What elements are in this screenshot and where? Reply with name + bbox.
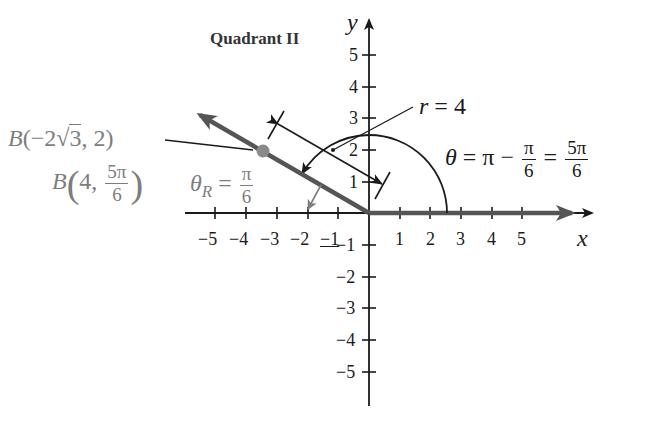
radius-label: r = 4 [419,94,466,118]
equals-sign: = [218,170,232,196]
close-paren: ) [130,163,143,205]
rect-open: (−2 [23,125,57,151]
reference-angle-fraction: π 6 [240,164,254,208]
polar-point-name: B [52,168,67,194]
frac1-den: 6 [524,160,534,182]
x-tick-label: −4 [229,230,248,248]
x-tick-label: 4 [487,230,496,248]
y-tick-label: −1 [336,236,355,254]
y-tick-label: 2 [349,141,358,159]
x-tick-label: −5 [198,230,217,248]
y-tick-label: 3 [349,109,358,127]
angle-eq1: = π − [463,144,514,170]
r-leader-line [333,107,413,150]
y-tick-label: 1 [349,173,358,191]
polar-theta-den: 6 [112,184,122,206]
y-tick-label: −5 [336,363,355,381]
frac2-den: 6 [572,160,582,182]
x-tick-label: 5 [517,230,526,248]
open-paren: ( [67,163,80,205]
reference-angle-label: θR = π 6 [190,164,255,208]
polar-coordinate-diagram: Quadrant II y x −5 −4 −3 −2 −1 1 2 3 4 5… [0,0,648,424]
sqrt-arg: 3 [69,124,81,151]
angle-arc [302,135,447,213]
ref-frac-num: π [240,164,254,186]
x-tick-label: 3 [456,230,465,248]
point-b-rectangular-label: BB(−2(−2√3, 2) [8,126,113,150]
angle-fraction-1: π 6 [522,138,536,182]
point-b-name: B [8,125,23,151]
frac1-num: π [522,138,536,160]
y-tick-label: −3 [336,299,355,317]
sqrt-sign: √ [56,125,69,151]
reference-angle-arrow [308,185,321,209]
x-tick-label: 1 [395,230,404,248]
theta-subscript: R [202,182,212,201]
y-tick-label: 5 [349,46,358,64]
r-symbol: r [419,93,428,119]
y-tick-label: −4 [336,331,355,349]
x-axis-label: x [577,226,588,250]
x-tick-label: 2 [426,230,435,248]
polar-r: 4, [79,168,97,194]
y-axis-label: y [347,10,358,34]
y-tick-label: 4 [349,78,358,96]
angle-label: θ = π − π 6 = 5π 6 [445,138,590,182]
polar-theta-fraction: 5π 6 [105,162,128,206]
x-tick-label: −3 [260,230,279,248]
angle-eq2: = [544,144,558,170]
point-b [257,145,270,158]
rect-suffix: , 2) [81,125,113,151]
frac2-num: 5π [565,138,588,160]
x-tick-label: −2 [290,230,309,248]
r-value: = 4 [434,93,466,119]
polar-theta-num: 5π [105,162,128,184]
quadrant-title: Quadrant II [210,30,299,47]
ref-frac-den: 6 [242,186,252,208]
theta-symbol: θ [445,144,457,170]
point-leader-line [165,140,253,150]
angle-fraction-2: 5π 6 [565,138,588,182]
diagram-graphics [0,0,648,424]
theta-symbol: θ [190,170,202,196]
radius-dimension [268,111,390,199]
point-b-polar-label: B(4, 5π 6 ) [52,162,143,206]
y-tick-label: −2 [336,268,355,286]
